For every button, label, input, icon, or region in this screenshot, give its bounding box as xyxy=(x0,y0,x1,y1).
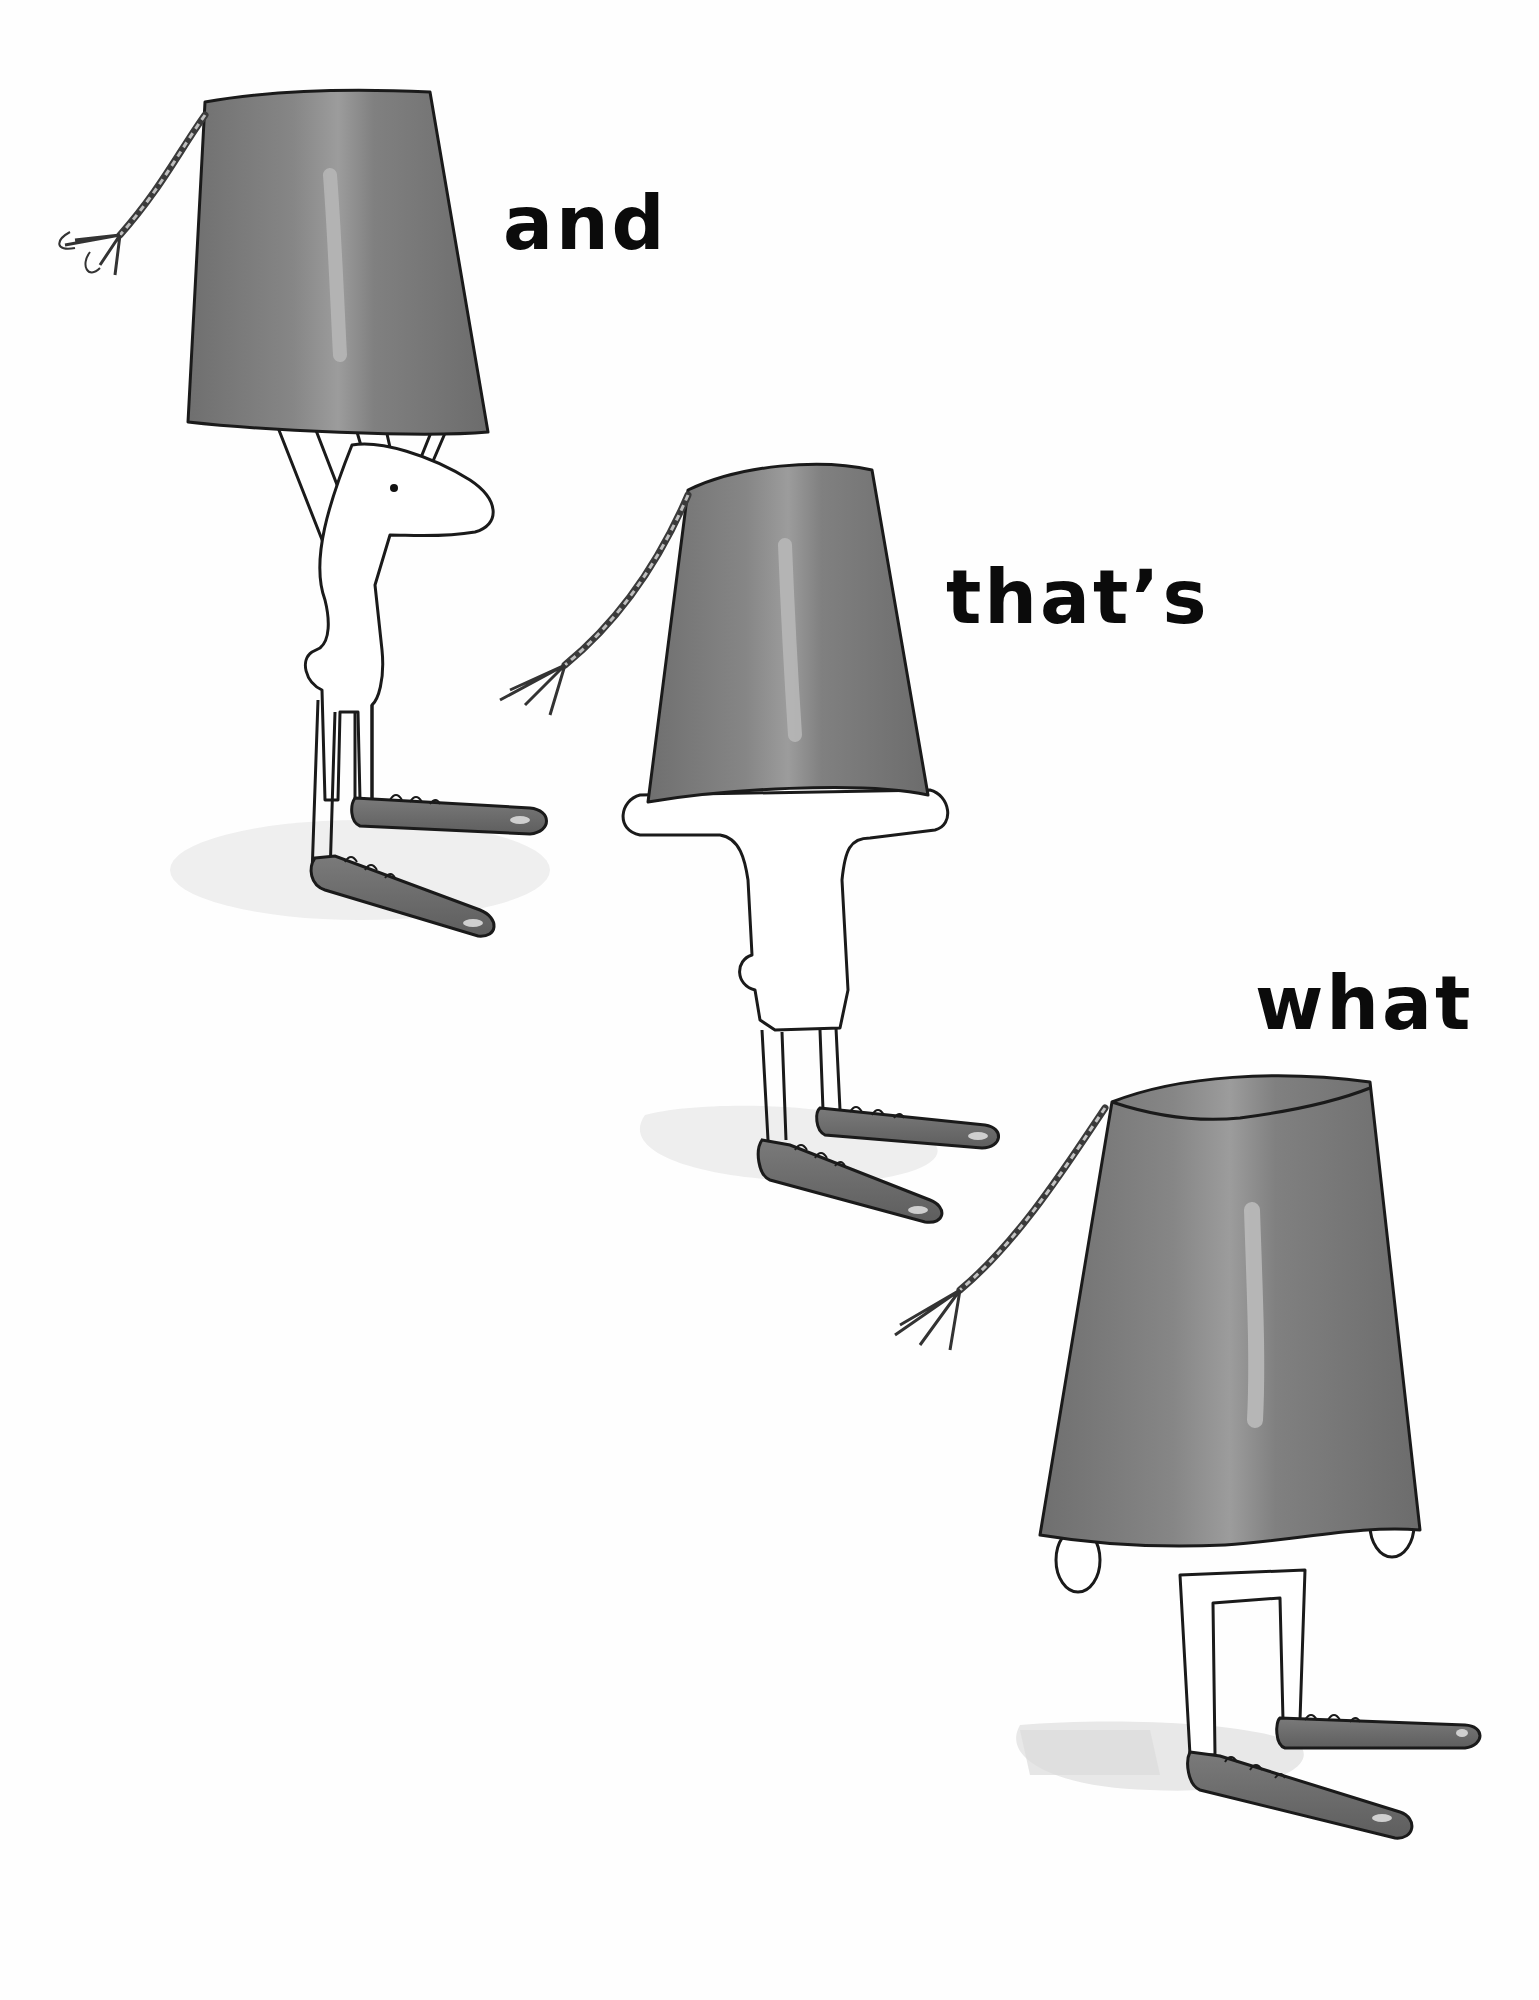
handle-tassel xyxy=(65,235,120,275)
word-and: and xyxy=(503,186,668,260)
word-thats: that’s xyxy=(946,560,1210,634)
shoe-front xyxy=(1277,1718,1480,1748)
shoe-back xyxy=(1188,1752,1412,1838)
word-what: what xyxy=(1255,966,1473,1040)
bucket xyxy=(1040,1076,1420,1546)
handle-tassel xyxy=(500,665,565,715)
storybook-page: and that’s what xyxy=(0,0,1539,2000)
figure-3 xyxy=(895,1076,1480,1838)
figure-1 xyxy=(59,90,550,936)
figure-2 xyxy=(500,464,999,1222)
handle-tassel xyxy=(895,1290,960,1350)
body xyxy=(623,790,948,1030)
eye xyxy=(390,484,398,492)
